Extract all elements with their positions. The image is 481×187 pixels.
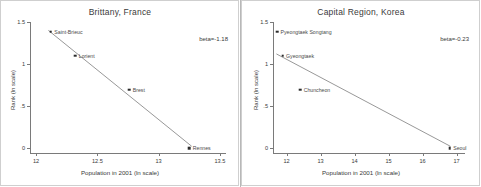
data-point-label: Chuncheon [304,87,331,93]
chart-panel-korea: Capital Region, Korea beta=-0.23 1213141… [241,0,481,187]
x-tick-label: 15 [385,158,391,164]
data-point[interactable] [448,147,451,150]
data-point-label: Gyeongtaek [286,53,314,59]
y-tick-label: .5 [20,103,25,109]
plot-area: 1212.51313.51.51.50Saint-BrieucLorientBr… [30,22,226,153]
x-tick-label: 12.5 [92,158,103,164]
data-point[interactable] [281,54,284,57]
x-tick-label: 16 [419,158,425,164]
x-tick [457,153,458,156]
x-axis-line [273,153,465,154]
data-point[interactable] [276,30,279,33]
panel-title: Brittany, France [0,7,240,17]
panel-title: Capital Region, Korea [241,7,481,17]
x-tick-label: 14 [351,158,357,164]
regression-fit-line [273,22,465,153]
y-axis-label: Rank (ln scale) [10,69,16,109]
y-tick-label: 0 [265,145,268,151]
plot-area: 1213141516171.51.50Pyeongtaek SongtangGy… [273,22,465,153]
x-tick-label: 13 [317,158,323,164]
y-axis-label: Rank (ln scale) [253,69,259,109]
x-tick-label: 12 [283,158,289,164]
chart-panel-brittany: Brittany, France beta=-1.18 1212.51313.5… [0,0,240,187]
y-tick-label: 1.5 [260,19,268,25]
y-tick-label: 1 [265,61,268,67]
y-tick-label: .5 [263,103,268,109]
data-point[interactable] [299,88,302,91]
x-tick-label: 13.5 [214,158,225,164]
x-tick [423,153,424,156]
data-point[interactable] [50,30,53,33]
x-tick [287,153,288,156]
data-point[interactable] [188,147,191,150]
x-tick [220,153,221,156]
data-point-label: Rennes [193,145,211,151]
data-point-label: Seoul [453,145,466,151]
figure-root: Brittany, France beta=-1.18 1212.51313.5… [0,0,481,187]
x-tick [36,153,37,156]
y-tick-label: 1 [22,61,25,67]
x-axis-label: Population in 2001 (ln scale) [241,169,481,176]
data-point[interactable] [74,54,77,57]
x-tick [321,153,322,156]
y-tick-label: 1.5 [17,19,25,25]
data-point-label: Lorient [79,53,95,59]
x-tick [159,153,160,156]
data-point-label: Saint-Brieuc [54,29,82,35]
x-axis-label: Population in 2001 (ln scale) [0,169,240,176]
data-point[interactable] [128,88,131,91]
data-point-label: Pyeongtaek Songtang [281,29,332,35]
x-tick [389,153,390,156]
x-axis-line [30,153,226,154]
x-tick-label: 12 [33,158,39,164]
y-tick-label: 0 [22,145,25,151]
x-tick [97,153,98,156]
x-tick-label: 17 [453,158,459,164]
x-tick-label: 13 [156,158,162,164]
x-tick [355,153,356,156]
data-point-label: Brest [133,87,145,93]
